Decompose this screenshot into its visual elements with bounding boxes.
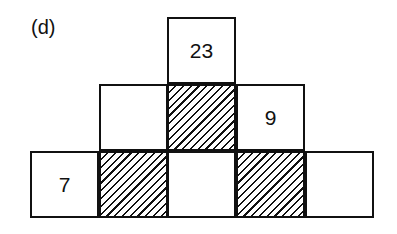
pyramid-cell-middle-1 xyxy=(99,84,168,151)
pyramid-cell-middle-3: 9 xyxy=(236,84,305,151)
pyramid-cell-bottom-1: 7 xyxy=(30,151,99,218)
pyramid-cell-bottom-4-hatched xyxy=(236,151,305,218)
pyramid-cell-top: 23 xyxy=(167,17,236,84)
pyramid-cell-bottom-5 xyxy=(305,151,374,218)
pyramid-cell-bottom-2-hatched xyxy=(99,151,168,218)
pyramid-cell-bottom-3 xyxy=(167,151,236,218)
figure-label: (d) xyxy=(31,16,55,39)
pyramid-cell-middle-2-hatched xyxy=(167,84,236,151)
